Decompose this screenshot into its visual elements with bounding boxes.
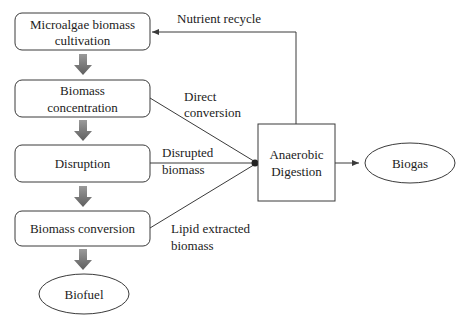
label-nutrient-recycle: Nutrient recycle bbox=[177, 11, 261, 26]
block-arrow-down-icon bbox=[74, 120, 92, 141]
junction-dot-icon bbox=[252, 160, 259, 167]
label-lipid-line2: biomass bbox=[171, 238, 214, 253]
node-cultivation-line1: Microalgae biomass bbox=[30, 17, 135, 32]
node-biofuel-label: Biofuel bbox=[65, 287, 104, 302]
node-biomass-conversion: Biomass conversion bbox=[15, 211, 150, 246]
node-cultivation-line2: cultivation bbox=[55, 33, 111, 48]
label-lipid-line1: Lipid extracted bbox=[171, 221, 251, 236]
node-ad-line1: Anaerobic bbox=[269, 147, 323, 162]
node-concentration: Biomass concentration bbox=[15, 80, 150, 117]
node-conversion-label: Biomass conversion bbox=[30, 221, 136, 236]
node-concentration-line2: concentration bbox=[47, 100, 118, 115]
block-arrow-down-icon bbox=[74, 54, 92, 75]
label-direct-line2: conversion bbox=[184, 105, 242, 120]
node-anaerobic-digestion: Anaerobic Digestion bbox=[258, 124, 335, 201]
node-biogas-label: Biogas bbox=[392, 156, 428, 171]
node-ad-line2: Digestion bbox=[271, 164, 322, 179]
label-direct-line1: Direct bbox=[184, 89, 217, 104]
node-concentration-line1: Biomass bbox=[60, 83, 105, 98]
node-disruption-label: Disruption bbox=[55, 156, 111, 171]
block-arrow-down-icon bbox=[74, 186, 92, 207]
node-biogas: Biogas bbox=[365, 143, 455, 183]
node-cultivation: Microalgae biomass cultivation bbox=[15, 13, 150, 50]
node-disruption: Disruption bbox=[15, 145, 150, 182]
node-biofuel: Biofuel bbox=[39, 274, 129, 314]
label-disrupted-line2: biomass bbox=[162, 162, 205, 177]
label-disrupted-line1: Disrupted bbox=[162, 145, 214, 160]
flowchart-canvas: Microalgae biomass cultivation Biomass c… bbox=[0, 0, 469, 327]
block-arrow-down-icon bbox=[74, 249, 92, 270]
